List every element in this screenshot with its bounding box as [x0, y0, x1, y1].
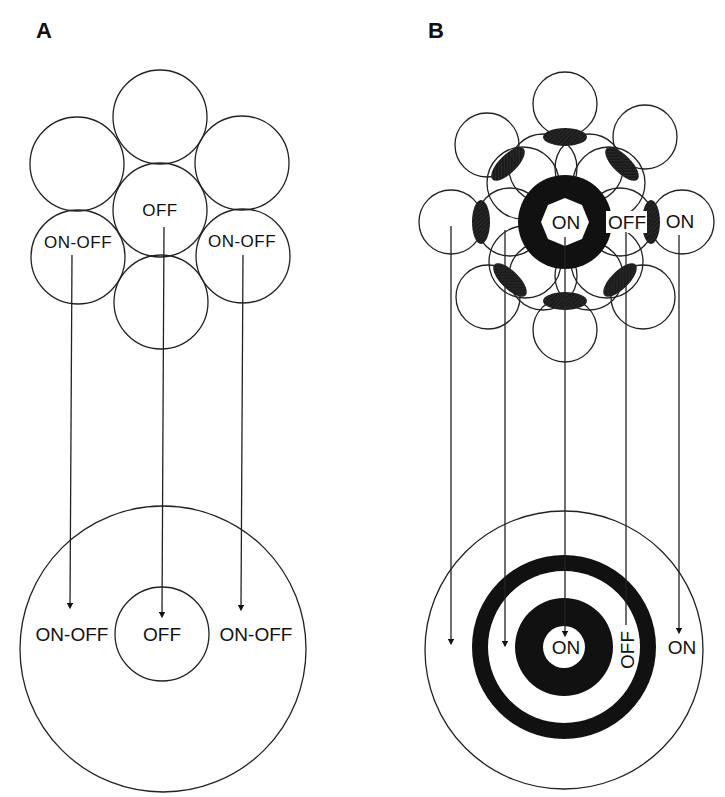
label-b-target-outer: ON: [668, 637, 697, 658]
label-a-left-onoff: ON-OFF: [44, 233, 112, 252]
receptor-circle-bottom: [114, 255, 208, 349]
label-a-target-right: ON-OFF: [220, 624, 293, 645]
label-a-right-onoff: ON-OFF: [208, 232, 276, 251]
target-circle-outer: [20, 506, 306, 792]
panel-a: A OFF ON-OFF ON-OFF ON-OFF OFF ON-OFF: [20, 18, 306, 792]
receptor-circle-upper-left: [30, 117, 124, 211]
receptor-circle-top: [113, 70, 207, 164]
receptor-outer-lower-left: [456, 265, 520, 329]
panel-a-receptor-cluster: OFF ON-OFF ON-OFF: [30, 70, 290, 349]
receptor-circle-upper-right: [195, 116, 289, 210]
receptor-outer-lower-right: [611, 265, 675, 329]
label-b-target-center: ON: [552, 637, 581, 658]
receptor-circle-lower-left: [31, 210, 125, 304]
label-a-target-left: ON-OFF: [36, 624, 109, 645]
panel-b-label: B: [428, 18, 444, 43]
panel-b-receptor-cluster: ON OFF ON: [419, 72, 714, 362]
projection-arrow-left: [70, 255, 72, 606]
panel-b-projection-lines: [451, 226, 679, 644]
panel-a-target-field: ON-OFF OFF ON-OFF: [20, 506, 306, 792]
receptor-outer-upper-right: [613, 105, 677, 169]
panel-b-target-field: ON OFF ON: [425, 511, 703, 789]
receptor-outer-top: [533, 72, 597, 136]
projection-arrow-center: [162, 227, 164, 615]
projection-arrow-right: [241, 255, 243, 608]
panel-b: B: [419, 18, 714, 789]
label-a-target-center: OFF: [143, 624, 181, 645]
receptive-field-diagram: A OFF ON-OFF ON-OFF ON-OFF OFF ON-OFF: [0, 0, 725, 797]
label-b-ring-off: OFF: [608, 212, 646, 233]
label-b-outer-on: ON: [666, 211, 695, 232]
label-b-center-on: ON: [552, 212, 581, 233]
label-a-center-off: OFF: [142, 201, 178, 220]
panel-a-projection-lines: [70, 227, 243, 615]
label-b-target-off: OFF: [617, 631, 638, 669]
panel-a-label: A: [36, 18, 52, 43]
